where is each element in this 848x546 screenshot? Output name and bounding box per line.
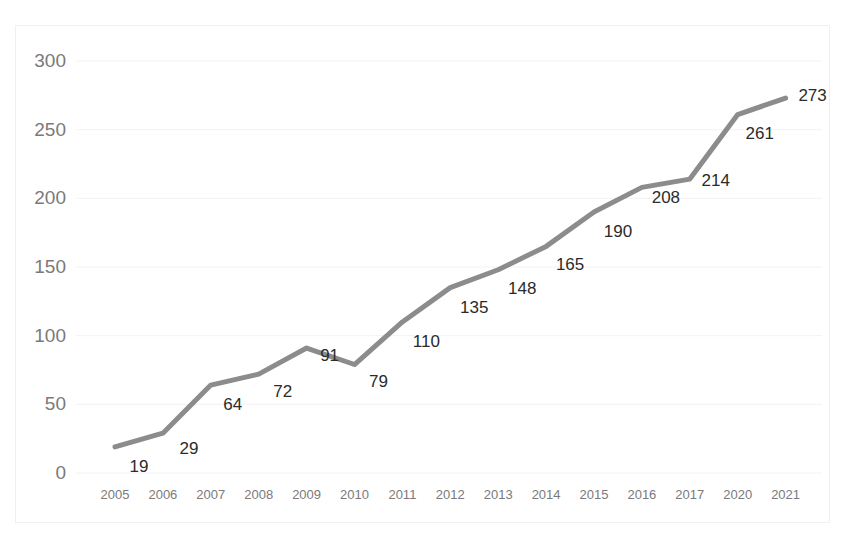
x-axis-tick-label: 2020 (714, 487, 762, 502)
y-axis-tick-label: 250 (8, 119, 66, 141)
y-axis-tick-label: 200 (8, 187, 66, 209)
x-axis-tick-label: 2009 (283, 487, 331, 502)
data-point-label: 190 (604, 222, 632, 242)
y-axis-tick-label: 100 (8, 325, 66, 347)
y-axis-tick-label: 0 (8, 462, 66, 484)
data-point-label: 72 (273, 382, 292, 402)
data-point-label: 64 (223, 395, 242, 415)
x-axis-tick-label: 2006 (139, 487, 187, 502)
data-point-label: 261 (746, 124, 774, 144)
series-line (115, 98, 786, 447)
y-axis-tick-label: 150 (8, 256, 66, 278)
data-point-label: 135 (460, 298, 488, 318)
x-axis-tick-label: 2005 (91, 487, 139, 502)
data-point-label: 214 (702, 171, 730, 191)
chart-canvas (0, 0, 848, 546)
y-axis-tick-label: 50 (8, 393, 66, 415)
data-point-label: 208 (652, 188, 680, 208)
x-axis-tick-label: 2014 (522, 487, 570, 502)
x-axis-tick-label: 2017 (666, 487, 714, 502)
x-axis-tick-label: 2016 (618, 487, 666, 502)
data-point-label: 273 (798, 86, 826, 106)
x-axis-tick-label: 2013 (474, 487, 522, 502)
x-axis-tick-label: 2012 (426, 487, 474, 502)
data-point-label: 91 (320, 346, 339, 366)
data-point-label: 79 (369, 372, 388, 392)
data-point-label: 19 (130, 457, 149, 477)
data-point-label: 110 (413, 332, 440, 352)
x-axis-tick-label: 2007 (187, 487, 235, 502)
x-axis-tick-label: 2021 (762, 487, 810, 502)
x-axis-tick-label: 2008 (235, 487, 283, 502)
data-point-label: 165 (556, 255, 584, 275)
x-axis-tick-label: 2010 (331, 487, 379, 502)
y-axis-tick-label: 300 (8, 50, 66, 72)
x-axis-tick-label: 2011 (378, 487, 426, 502)
data-point-label: 29 (179, 439, 198, 459)
line-chart: 050100150200250300 200520062007200820092… (0, 0, 848, 546)
series-group (115, 98, 786, 447)
x-axis-tick-label: 2015 (570, 487, 618, 502)
data-point-label: 148 (508, 279, 536, 299)
